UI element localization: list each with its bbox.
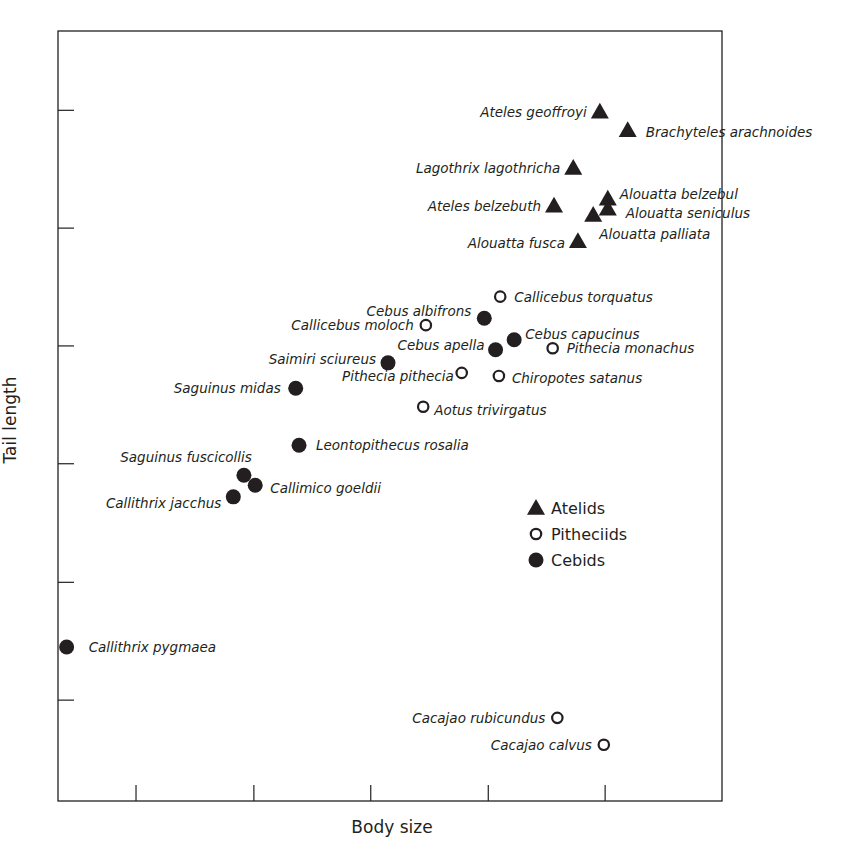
point-label: Alouatta belzebul [619,186,738,202]
data-point: Callithrix jacchus [106,489,241,511]
point-label: Leontopithecus rosalia [316,437,469,453]
legend-circle-open-icon [531,529,541,539]
data-point: Callimico goeldii [248,478,382,497]
plot-border [58,31,722,801]
open-circle-marker-icon [495,291,505,301]
point-label: Alouatta fusca [467,235,565,251]
legend-triangle-filled-icon [527,499,545,515]
data-point: Alouatta seniculus [599,200,750,221]
legend-item: Pitheciids [531,525,627,544]
triangle-marker-icon [564,159,582,175]
data-point: Ateles geoffroyi [479,103,609,120]
series-cebids: Cebus albifronsCebus capucinusCebus apel… [59,303,639,655]
data-point: Callithrix pygmaea [59,639,216,655]
open-circle-marker-icon [421,320,431,330]
point-label: Lagothrix lagothricha [416,160,560,176]
open-circle-marker-icon [457,368,467,378]
point-label: Callicebus moloch [291,317,414,333]
triangle-marker-icon [584,206,602,222]
filled-circle-marker-icon [248,478,263,493]
filled-circle-marker-icon [381,355,396,370]
point-label: Cacajao rubicundus [412,710,545,726]
data-point: Saguinus fuscicollis [120,449,252,483]
legend: AtelidsPitheciidsCebids [527,499,627,570]
scatter-plot: Ateles geoffroyiBrachyteles arachnoidesL… [0,0,857,864]
point-label: Saguinus midas [174,380,281,396]
open-circle-marker-icon [494,371,504,381]
legend-item: Atelids [527,499,605,518]
filled-circle-marker-icon [477,311,492,326]
point-label: Cebus albifrons [367,303,472,319]
point-label: Callimico goeldii [270,480,381,496]
data-point: Cacajao calvus [491,737,609,753]
data-point: Callicebus moloch [291,317,431,333]
legend-label: Pitheciids [551,525,627,544]
data-point: Cebus apella [397,337,503,358]
point-label: Alouatta palliata [598,226,710,242]
data-point: Pithecia pithecia [342,368,467,384]
data-point: Brachyteles arachnoides [619,121,813,140]
triangle-marker-icon [569,232,587,248]
point-label: Pithecia monachus [567,340,695,356]
data-point: Pithecia monachus [547,340,694,356]
data-point: Cacajao rubicundus [412,710,562,726]
filled-circle-marker-icon [236,468,251,483]
data-point: Saguinus midas [174,380,303,396]
triangle-marker-icon [591,103,609,119]
data-point: Callicebus torquatus [495,289,653,305]
data-point: Ateles belzebuth [427,197,563,214]
data-point: Aotus trivirgatus [418,402,546,418]
legend-label: Cebids [551,551,605,570]
data-point: Alouatta fusca [467,232,587,251]
open-circle-marker-icon [599,740,609,750]
data-point: Alouatta belzebul [599,186,738,206]
point-label: Cebus capucinus [525,326,639,342]
point-label: Saimiri sciureus [269,351,376,367]
point-label: Callithrix jacchus [106,495,221,511]
filled-circle-marker-icon [488,342,503,357]
point-label: Brachyteles arachnoides [646,124,813,140]
point-label: Alouatta seniculus [625,205,750,221]
point-label: Callithrix pygmaea [89,639,217,655]
triangle-marker-icon [545,197,563,213]
point-label: Chiropotes satanus [512,370,642,386]
open-circle-marker-icon [418,402,428,412]
point-label: Saguinus fuscicollis [120,449,252,465]
point-label: Aotus trivirgatus [433,402,546,418]
point-label: Cebus apella [397,337,484,353]
data-point: Lagothrix lagothricha [416,159,582,176]
triangle-marker-icon [619,121,637,137]
legend-label: Atelids [551,499,605,518]
legend-item: Cebids [529,551,606,570]
filled-circle-marker-icon [59,640,74,655]
point-label: Pithecia pithecia [342,368,454,384]
y-axis-label: Tail length [0,376,20,464]
point-label: Ateles belzebuth [427,198,541,214]
filled-circle-marker-icon [226,489,241,504]
point-label: Callicebus torquatus [514,289,653,305]
filled-circle-marker-icon [507,332,522,347]
open-circle-marker-icon [547,343,557,353]
data-point: Chiropotes satanus [494,370,643,386]
legend-circle-filled-icon [529,553,544,568]
plot-frame [58,31,722,801]
data-point: Leontopithecus rosalia [292,437,469,453]
x-axis-label: Body size [351,817,432,837]
data-points: Ateles geoffroyiBrachyteles arachnoidesL… [59,103,812,753]
point-label: Ateles geoffroyi [479,104,587,120]
series-atelids: Ateles geoffroyiBrachyteles arachnoidesL… [416,103,812,251]
filled-circle-marker-icon [292,438,307,453]
open-circle-marker-icon [552,713,562,723]
point-label: Cacajao calvus [491,737,592,753]
filled-circle-marker-icon [288,381,303,396]
